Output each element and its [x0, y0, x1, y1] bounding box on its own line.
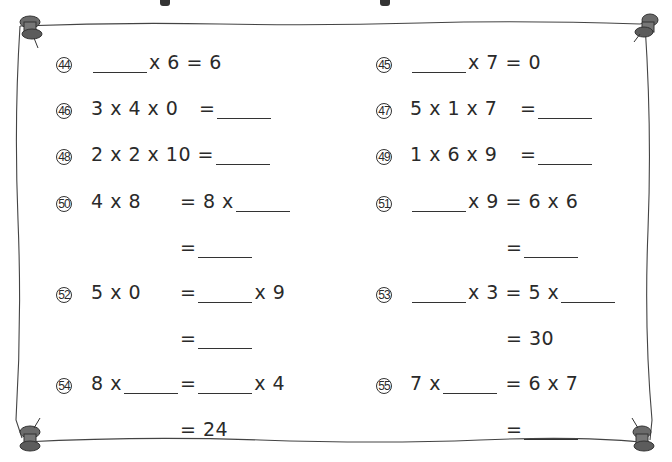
problem-44: x 6 = 6: [91, 51, 222, 73]
answer-blank[interactable]: [198, 375, 252, 394]
problem-number-45: 45: [376, 57, 392, 73]
problem-55-result: =: [506, 418, 580, 440]
answer-blank[interactable]: [538, 100, 592, 119]
problem-number-44: 44: [56, 57, 72, 73]
problem-number-49: 49: [376, 149, 392, 165]
answer-blank[interactable]: [216, 146, 270, 165]
answer-blank[interactable]: [198, 284, 252, 303]
answer-blank[interactable]: [561, 284, 615, 303]
answer-blank[interactable]: [538, 146, 592, 165]
problem-number-55: 55: [376, 378, 392, 394]
problem-48: 2 x 2 x 10 =: [91, 143, 272, 165]
pushpin-icon-bottom-left: [20, 418, 40, 451]
problem-53: x 3 = 5 x: [410, 281, 617, 303]
problem-number-53: 53: [376, 287, 392, 303]
answer-blank[interactable]: [443, 375, 497, 394]
problem-52-result: =: [180, 327, 254, 349]
answer-blank[interactable]: [124, 375, 178, 394]
problem-49: 1 x 6 x 9 =: [410, 143, 594, 165]
problem-50-left: 4 x 8: [91, 190, 141, 212]
problem-number-48: 48: [56, 149, 72, 165]
problem-number-47: 47: [376, 103, 392, 119]
problem-53-result: = 30: [506, 327, 554, 349]
problem-54-result: = 24: [180, 418, 228, 440]
problem-number-54: 54: [56, 378, 72, 394]
answer-blank[interactable]: [412, 284, 466, 303]
problem-50-result: =: [180, 236, 254, 258]
answer-blank[interactable]: [217, 100, 271, 119]
problem-50-right: = 8 x: [180, 190, 292, 212]
problem-52-right: =x 9: [180, 281, 285, 303]
problem-51: x 9 = 6 x 6: [410, 190, 578, 212]
answer-blank[interactable]: [198, 330, 252, 349]
problem-55: 7 x = 6 x 7: [410, 372, 578, 394]
problem-54: 8 x=x 4: [91, 372, 285, 394]
problem-51-result: =: [506, 236, 580, 258]
answer-blank[interactable]: [524, 421, 578, 440]
problem-46: 3 x 4 x 0 =: [91, 97, 273, 119]
problem-number-51: 51: [376, 196, 392, 212]
problem-number-46: 46: [56, 103, 72, 119]
answer-blank[interactable]: [412, 193, 466, 212]
answer-blank[interactable]: [524, 239, 578, 258]
problem-number-52: 52: [56, 287, 72, 303]
problem-52-left: 5 x 0: [91, 281, 141, 303]
problem-45: x 7 = 0: [410, 51, 541, 73]
problem-47: 5 x 1 x 7 =: [410, 97, 594, 119]
problem-number-50: 50: [56, 196, 72, 212]
answer-blank[interactable]: [93, 54, 147, 73]
pushpin-icon-bottom-right: [632, 418, 654, 451]
pushpin-icon-top-left: [20, 16, 42, 48]
answer-blank[interactable]: [198, 239, 252, 258]
answer-blank[interactable]: [236, 193, 290, 212]
answer-blank[interactable]: [412, 54, 466, 73]
